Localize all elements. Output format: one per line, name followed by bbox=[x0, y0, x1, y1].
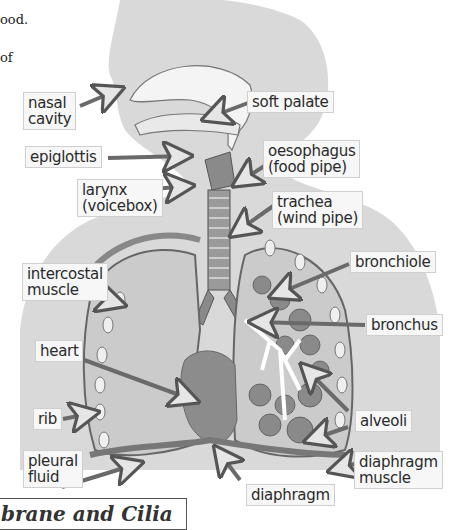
label-nasal-cavity: nasal cavity bbox=[23, 92, 76, 130]
label-soft-palate: soft palate bbox=[247, 91, 334, 113]
label-trachea: trachea (wind pipe) bbox=[272, 191, 363, 229]
label-heart: heart bbox=[35, 340, 83, 362]
label-pleural-fluid: pleural fluid bbox=[23, 450, 83, 488]
label-rib: rib bbox=[33, 408, 62, 430]
section-caption: brane and Cilia bbox=[0, 498, 187, 530]
label-bronchiole: bronchiole bbox=[350, 251, 436, 273]
label-diaphragm-muscle: diaphragm muscle bbox=[354, 451, 443, 489]
label-epiglottis: epiglottis bbox=[25, 146, 102, 168]
label-larynx: larynx (voicebox) bbox=[77, 179, 163, 217]
label-oesophagus: oesophagus (food pipe) bbox=[263, 140, 360, 178]
label-alveoli: alveoli bbox=[355, 410, 412, 432]
label-intercostal-muscle: intercostal muscle bbox=[22, 263, 108, 301]
label-bronchus: bronchus bbox=[366, 314, 443, 336]
label-diaphragm: diaphragm bbox=[246, 484, 335, 506]
